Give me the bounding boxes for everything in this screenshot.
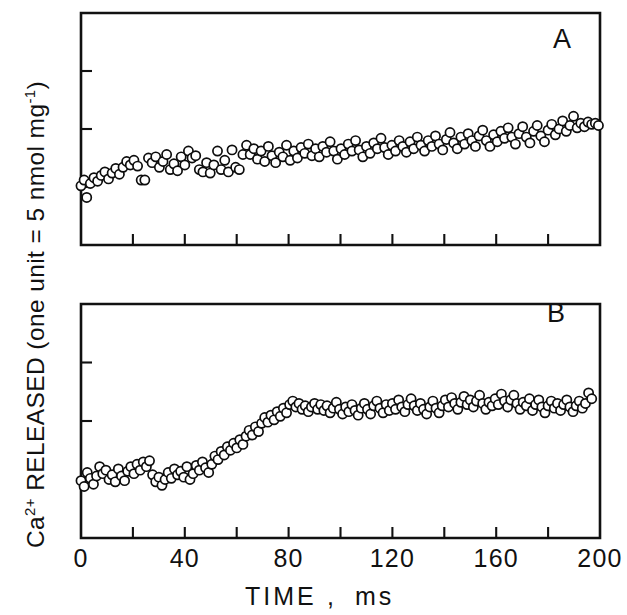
- data-point: [133, 162, 142, 171]
- data-point: [438, 145, 447, 154]
- data-point: [445, 128, 454, 137]
- data-point: [376, 134, 385, 143]
- panel-b-tag: B: [547, 298, 565, 328]
- data-point: [540, 137, 549, 146]
- data-point: [145, 456, 154, 465]
- y-axis-label-charge: 2+: [21, 498, 38, 516]
- data-point: [533, 121, 542, 130]
- panel-a: A: [76, 13, 603, 245]
- data-point: [478, 126, 487, 135]
- x-tick-label-80: 80: [273, 544, 303, 572]
- data-point: [525, 138, 534, 147]
- data-point: [504, 123, 513, 132]
- panel-a-y-ticks: [81, 71, 92, 187]
- data-point: [471, 142, 480, 151]
- svg-text:Ca2+ RELEASED (one unit = 5 nm: Ca2+ RELEASED (one unit = 5 nmol mg-1): [21, 81, 49, 548]
- x-tick-label-40: 40: [170, 544, 200, 572]
- data-point: [220, 156, 229, 165]
- data-point: [569, 112, 578, 121]
- panel-b-data-points: [76, 388, 596, 491]
- data-point: [351, 136, 360, 145]
- x-tick-label-200: 200: [577, 544, 622, 572]
- data-point: [120, 476, 129, 485]
- data-point: [511, 139, 520, 148]
- data-point: [518, 122, 527, 131]
- data-point: [80, 482, 89, 491]
- data-point: [227, 145, 236, 154]
- data-point: [140, 175, 149, 184]
- panel-b-y-ticks: [81, 363, 92, 480]
- data-point: [162, 150, 171, 159]
- panel-b-x-ticks: [133, 527, 548, 538]
- data-point: [594, 121, 603, 130]
- data-point: [213, 146, 222, 155]
- x-axis-title-separator: ,: [327, 582, 337, 610]
- y-axis-label: Ca2+ RELEASED (one unit = 5 nmol mg-1): [21, 81, 49, 548]
- figure-container: Ca2+ RELEASED (one unit = 5 nmol mg-1) A…: [0, 0, 627, 615]
- x-axis-title-units: ms: [355, 582, 394, 610]
- x-axis-title-name: TIME: [245, 582, 317, 610]
- panel-a-data-points: [76, 112, 603, 202]
- data-point: [191, 151, 200, 160]
- data-point: [587, 394, 596, 403]
- x-axis-title: TIME , ms: [245, 582, 394, 610]
- data-point: [82, 193, 91, 202]
- y-axis-label-ca: Ca: [22, 516, 49, 548]
- x-tick-label-0: 0: [73, 544, 88, 572]
- y-axis-label-mid: RELEASED (one unit = 5 nmol mg: [22, 104, 49, 498]
- panel-a-tag: A: [553, 24, 571, 54]
- panel-b-frame: [81, 304, 600, 538]
- x-tick-label-160: 160: [474, 544, 519, 572]
- x-tick-label-120: 120: [370, 544, 415, 572]
- panel-b: B: [76, 298, 600, 538]
- data-point: [326, 137, 335, 146]
- data-point: [264, 142, 273, 151]
- y-axis-label-close: ): [22, 81, 49, 90]
- ca-release-figure: Ca2+ RELEASED (one unit = 5 nmol mg-1) A…: [0, 0, 627, 615]
- panel-a-x-ticks: [133, 234, 548, 245]
- data-point: [235, 165, 244, 174]
- x-axis-tick-labels: 04080120160200: [73, 544, 622, 572]
- data-point: [180, 160, 189, 169]
- y-axis-label-exponent: -1: [21, 89, 38, 103]
